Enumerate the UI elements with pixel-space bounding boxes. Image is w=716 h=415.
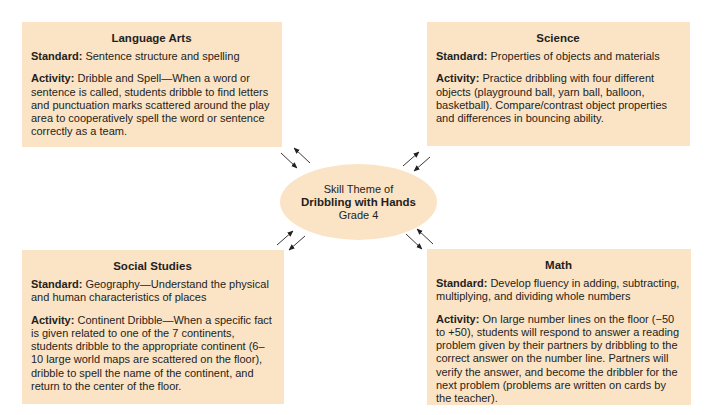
social-studies-standard: Standard: Geography—Understand the physi…	[31, 278, 274, 305]
arrow-toward-box-icon	[294, 148, 310, 163]
arrow-toward-center-icon	[414, 157, 430, 171]
grade-label: Grade 4	[339, 209, 379, 222]
connector-science-arrows	[403, 152, 430, 171]
arrow-toward-center-icon	[417, 229, 433, 244]
activity-label: Activity:	[31, 72, 74, 84]
arrow-toward-center-icon	[277, 231, 293, 245]
activity-label: Activity:	[436, 72, 479, 84]
activity-text: On large number lines on the floor (−50 …	[436, 313, 679, 405]
math-activity: Activity: On large number lines on the f…	[436, 313, 681, 406]
arrow-toward-box-icon	[406, 234, 422, 249]
connector-language-arts-arrows	[281, 148, 310, 168]
language-arts-box: Language Arts Standard: Sentence structu…	[22, 22, 282, 147]
skill-theme-ellipse: Skill Theme of Dribbling with Hands Grad…	[280, 164, 437, 240]
standard-label: Standard:	[436, 50, 487, 62]
language-arts-standard: Standard: Sentence structure and spellin…	[31, 50, 272, 63]
math-box: Math Standard: Develop fluency in adding…	[427, 249, 691, 405]
activity-label: Activity:	[31, 314, 74, 326]
standard-label: Standard:	[31, 278, 82, 290]
science-box: Science Standard: Properties of objects …	[427, 22, 690, 146]
skill-theme-title: Dribbling with Hands	[301, 196, 416, 209]
arrow-toward-box-icon	[403, 152, 419, 166]
activity-label: Activity:	[436, 313, 479, 325]
skill-theme-line: Skill Theme of	[324, 183, 394, 196]
math-standard: Standard: Develop fluency in adding, sub…	[436, 277, 681, 304]
connector-math-arrows	[406, 229, 433, 249]
social-studies-activity: Activity: Continent Dribble—When a speci…	[31, 314, 274, 394]
connector-social-studies-arrows	[277, 231, 305, 250]
social-studies-title: Social Studies	[31, 259, 274, 273]
standard-text: Properties of objects and materials	[487, 50, 659, 62]
language-arts-activity: Activity: Dribble and Spell—When a word …	[31, 72, 272, 138]
standard-label: Standard:	[31, 50, 82, 62]
language-arts-title: Language Arts	[31, 31, 272, 45]
standard-label: Standard:	[436, 277, 487, 289]
arrow-toward-center-icon	[281, 153, 297, 168]
math-title: Math	[436, 258, 681, 272]
science-title: Science	[436, 31, 680, 45]
arrow-toward-box-icon	[289, 236, 305, 250]
standard-text: Sentence structure and spelling	[82, 50, 239, 62]
science-standard: Standard: Properties of objects and mate…	[436, 50, 680, 63]
social-studies-box: Social Studies Standard: Geography—Under…	[22, 250, 284, 404]
science-activity: Activity: Practice dribbling with four d…	[436, 72, 680, 125]
